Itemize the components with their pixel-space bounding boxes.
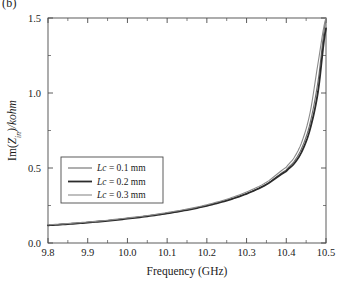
x-tick-label: 10.1 — [158, 247, 176, 258]
x-tick-label: 9.8 — [41, 247, 54, 258]
x-tick-label: 10.4 — [277, 247, 296, 258]
y-tick-label: 1.5 — [28, 13, 41, 24]
x-axis-tick-labels: 9.89.910.010.110.210.310.410.5 — [41, 247, 335, 258]
y-axis-tick-labels: 0.00.51.01.5 — [28, 13, 41, 249]
x-tick-label: 10.2 — [198, 247, 216, 258]
y-axis-title-text: Im(Zin)/kohm — [6, 100, 23, 161]
legend-label-2: Lc = 0.2 mm — [96, 177, 146, 187]
x-axis-title-text: Frequency (GHz) — [147, 265, 228, 278]
x-tick-label: 9.9 — [81, 247, 94, 258]
y-axis-title: Im(Zin)/kohm — [6, 100, 23, 161]
legend-label-3: Lc = 0.3 mm — [96, 190, 146, 200]
x-tick-label: 10.5 — [317, 247, 335, 258]
x-tick-label: 10.3 — [237, 247, 255, 258]
x-tick-label: 10.0 — [118, 247, 136, 258]
legend-label-1: Lc = 0.1 mm — [96, 163, 146, 173]
chart-legend: Lc = 0.1 mmLc = 0.2 mmLc = 0.3 mm — [61, 157, 163, 203]
y-tick-label: 0.0 — [28, 238, 41, 249]
y-tick-label: 0.5 — [28, 163, 41, 174]
figure-panel: (b) 9.89.910.010.110.210.310.410.5 0.00.… — [0, 0, 338, 283]
x-axis-title: Frequency (GHz) — [147, 265, 228, 278]
chart-canvas: 9.89.910.010.110.210.310.410.5 0.00.51.0… — [0, 0, 338, 283]
y-tick-label: 1.0 — [28, 88, 41, 99]
